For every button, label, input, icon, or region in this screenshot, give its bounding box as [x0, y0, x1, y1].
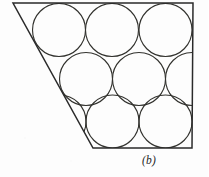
circle-r2-c3	[166, 53, 209, 106]
figure-container: (b)	[0, 0, 208, 177]
circle-r1-c1	[33, 4, 86, 57]
circle-r1-c3	[139, 4, 192, 57]
circle-r3-c1	[86, 95, 139, 148]
circle-r2-c2	[113, 53, 166, 106]
figure-caption: (b)	[142, 154, 156, 166]
circles-group	[33, 4, 209, 149]
circle-r2-c1	[60, 53, 113, 106]
circle-r1-c2	[86, 4, 139, 57]
circle-packing-diagram	[0, 0, 208, 177]
circle-r3-c2	[139, 95, 192, 148]
